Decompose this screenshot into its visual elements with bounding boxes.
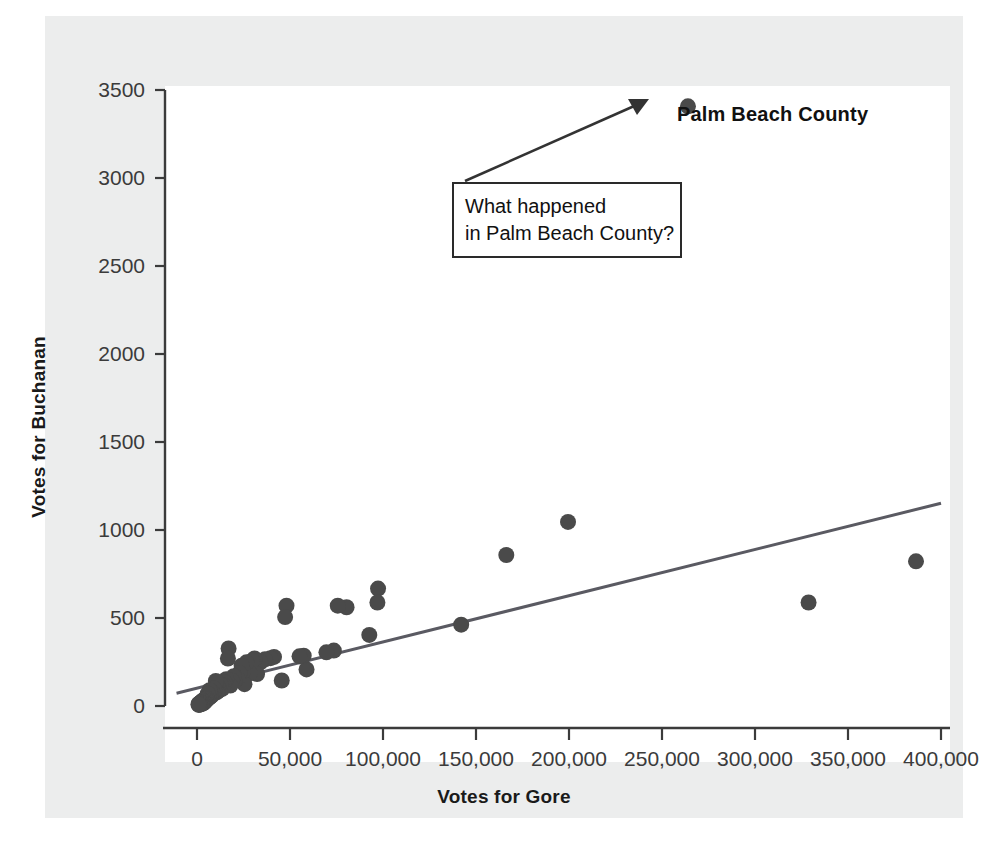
x-tick-label: 0 [191,747,203,771]
x-axis-ticks [197,728,941,740]
callout-arrow [465,99,649,181]
y-tick-label: 3000 [45,166,145,190]
plot-svg [45,16,963,818]
y-tick-label: 2000 [45,342,145,366]
scatter-point [330,598,346,614]
scatter-point [361,627,377,643]
scatter-point [220,650,236,666]
x-tick-label: 100,000 [345,747,421,771]
scatter-point [369,595,385,611]
y-axis-ticks [155,90,165,706]
y-tick-label: 1500 [45,430,145,454]
y-axis-title: Votes for Buchanan [28,336,50,518]
x-tick-label: 250,000 [624,747,700,771]
x-tick-label: 50,000 [258,747,322,771]
x-tick-label: 150,000 [438,747,514,771]
scatter-point [190,696,206,712]
chart-figure: 0 500 1000 1500 2000 2500 3000 3500 0 50… [45,16,963,818]
palm-beach-point-label: Palm Beach County [677,103,868,126]
scatter-point [498,547,514,563]
y-tick-label: 2500 [45,254,145,278]
scatter-point [453,617,469,633]
x-tick-label: 200,000 [531,747,607,771]
x-tick-label: 400,000 [903,747,979,771]
y-tick-label: 1000 [45,518,145,542]
scatter-point [292,648,308,664]
callout-line-1: What happened [465,193,680,220]
scatter-point [274,672,290,688]
x-tick-label: 350,000 [810,747,886,771]
callout-line-2: in Palm Beach County? [465,220,680,247]
y-tick-label: 3500 [45,78,145,102]
trend-line [177,503,941,693]
scatter-point [277,609,293,625]
page-root: 0 500 1000 1500 2000 2500 3000 3500 0 50… [0,0,1006,854]
scatter-point [560,514,576,530]
scatter-point [370,581,386,597]
x-axis-title: Votes for Gore [45,786,963,808]
callout-box: What happened in Palm Beach County? [452,182,682,258]
y-tick-label: 0 [45,694,145,718]
x-tick-label: 300,000 [717,747,793,771]
scatter-point [801,595,817,611]
scatter-point [318,644,334,660]
y-tick-label: 500 [45,606,145,630]
scatter-point [908,553,924,569]
